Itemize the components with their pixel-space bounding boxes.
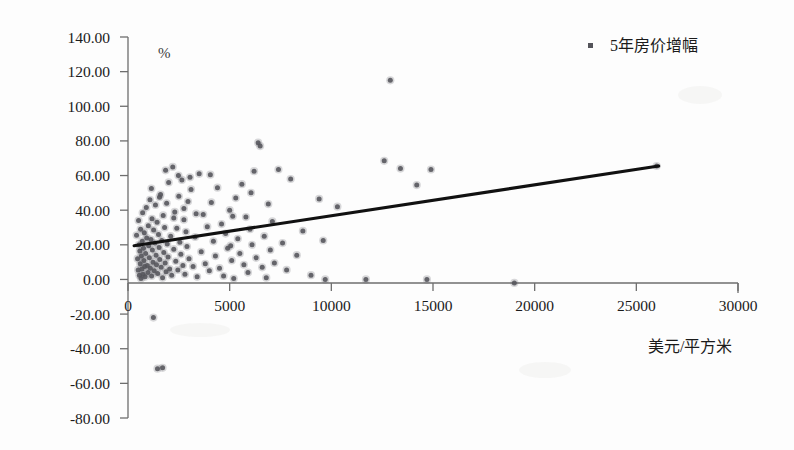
data-point: [252, 254, 260, 262]
data-point: [242, 213, 250, 221]
data-point: [173, 224, 181, 232]
data-point: [258, 263, 266, 271]
data-point: [321, 275, 329, 283]
data-point: [283, 266, 291, 274]
data-point: [423, 275, 431, 283]
data-point: [260, 232, 268, 240]
y-tick-label: -60.00: [70, 375, 110, 392]
data-point: [195, 170, 203, 178]
y-axis-unit-label: %: [158, 45, 171, 61]
data-point: [142, 203, 150, 211]
data-point: [396, 165, 404, 173]
data-point: [215, 264, 223, 272]
y-tick-label: 0.00: [83, 271, 110, 288]
scan-artifact: [170, 323, 230, 337]
data-point: [262, 274, 270, 282]
data-point: [179, 262, 187, 270]
data-point: [182, 228, 190, 236]
data-point: [510, 279, 518, 287]
data-point: [206, 171, 214, 179]
data-point: [185, 255, 193, 263]
y-tick-label: -40.00: [70, 340, 110, 357]
data-point: [278, 239, 286, 247]
data-point: [134, 216, 142, 224]
data-point: [183, 242, 191, 250]
data-point: [162, 166, 170, 174]
data-point: [186, 173, 194, 181]
data-point: [209, 237, 217, 245]
data-point: [213, 184, 221, 192]
data-point: [229, 212, 237, 220]
data-point: [315, 195, 323, 203]
data-point: [172, 257, 180, 265]
legend-entry-label: 5年房价增幅: [610, 37, 698, 54]
data-point: [155, 193, 163, 201]
data-point: [264, 200, 272, 208]
data-point: [201, 260, 209, 268]
data-point: [256, 142, 264, 150]
data-point: [234, 235, 242, 243]
chart-canvas: 140.00120.00100.0080.0060.0040.0020.000.…: [0, 0, 794, 450]
data-point: [184, 197, 192, 205]
data-point: [175, 192, 183, 200]
data-point: [207, 198, 215, 206]
data-point: [270, 259, 278, 267]
y-tick-label: 120.00: [67, 63, 110, 80]
data-point: [180, 204, 188, 212]
data-point: [203, 223, 211, 231]
data-point: [170, 245, 178, 253]
x-tick-label: 10000: [312, 297, 351, 314]
data-point: [427, 165, 435, 173]
data-point: [293, 251, 301, 259]
x-tick-label: 5000: [214, 297, 245, 314]
data-point: [247, 189, 255, 197]
y-tick-label: 60.00: [75, 167, 110, 184]
data-point: [413, 181, 421, 189]
data-point: [197, 248, 205, 256]
data-point: [169, 163, 177, 171]
legend-marker-icon: [588, 43, 593, 48]
data-point: [250, 167, 258, 175]
data-point: [174, 171, 182, 179]
data-point: [287, 175, 295, 183]
data-point: [228, 256, 236, 264]
data-point: [181, 270, 189, 278]
y-tick-label: 40.00: [75, 202, 110, 219]
data-point: [161, 223, 169, 231]
chart-background: [0, 0, 794, 450]
data-point: [149, 313, 157, 321]
data-point: [307, 271, 315, 279]
data-point: [380, 157, 388, 165]
data-point: [193, 273, 201, 281]
data-point: [227, 242, 235, 250]
data-point: [147, 184, 155, 192]
data-point: [230, 274, 238, 282]
y-tick-label: 140.00: [67, 29, 110, 46]
data-point: [266, 246, 274, 254]
scan-artifact: [519, 362, 571, 378]
x-axis-title: 美元/平方米: [648, 338, 732, 355]
data-point: [217, 220, 225, 228]
data-point: [333, 203, 341, 211]
data-point: [163, 199, 171, 207]
data-point: [199, 210, 207, 218]
x-tick-label: 30000: [719, 297, 758, 314]
data-point: [232, 194, 240, 202]
data-point: [238, 180, 246, 188]
data-point: [165, 178, 173, 186]
data-point: [240, 261, 248, 269]
x-tick-label: 0: [124, 297, 132, 314]
data-point: [362, 275, 370, 283]
data-point: [244, 268, 252, 276]
y-tick-label: 100.00: [67, 98, 110, 115]
y-tick-label: -20.00: [70, 306, 110, 323]
data-point: [187, 185, 195, 193]
x-tick-label: 20000: [515, 297, 554, 314]
data-point: [236, 249, 244, 257]
data-point: [177, 250, 185, 258]
data-point: [274, 165, 282, 173]
x-tick-label: 25000: [617, 297, 656, 314]
data-point: [211, 252, 219, 260]
data-point: [192, 210, 200, 218]
data-point: [151, 201, 159, 209]
